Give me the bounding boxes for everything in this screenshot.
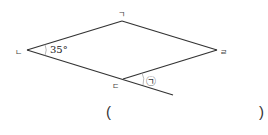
side-top-left: [27, 21, 122, 50]
side-bottom-left-extended: [27, 50, 173, 95]
angle-arc-left: [45, 45, 46, 56]
angle-unknown-label: ㉠: [146, 76, 156, 87]
vertex-label-top: ㄱ: [118, 10, 125, 19]
angle-arc-exterior: [142, 73, 144, 85]
vertex-label-left: ㄴ: [15, 48, 22, 57]
side-bottom-right: [123, 50, 217, 79]
vertex-label-right: ㄹ: [220, 48, 227, 57]
angle-35-label: 35°: [50, 44, 68, 55]
side-top-right: [122, 21, 217, 50]
answer-blank[interactable]: [116, 106, 256, 124]
answer-close-paren: ): [259, 103, 264, 120]
answer-open-paren: (: [106, 103, 111, 120]
vertex-label-bottom: ㄷ: [112, 82, 119, 91]
